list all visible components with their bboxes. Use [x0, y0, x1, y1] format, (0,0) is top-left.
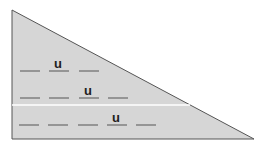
letter-u: u [84, 83, 92, 98]
letter-u: u [112, 110, 120, 125]
letter-u: u [54, 56, 62, 71]
triangle-diagram: u u u [0, 0, 258, 144]
triangle-shape [12, 10, 254, 139]
